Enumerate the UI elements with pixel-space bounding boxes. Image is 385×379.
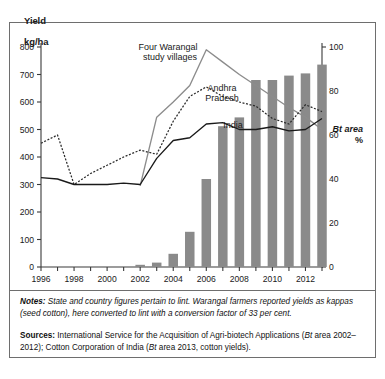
notes-block: Notes: State and country figures pertain…	[20, 296, 366, 321]
bt-area-bar	[317, 65, 327, 267]
x-tick-label: 2002	[131, 274, 150, 284]
yield-lines-group	[41, 50, 322, 186]
y-tick-label: 200	[20, 207, 35, 217]
sources-em-b: Bt	[149, 343, 157, 352]
x-tick-label: 2000	[98, 274, 117, 284]
x-tick-label: 2012	[296, 274, 315, 284]
bt-area-bar	[185, 232, 195, 267]
series-annotation: India	[223, 120, 243, 130]
sources-text-a: International Service for the Acquisitio…	[55, 331, 304, 340]
bt-area-bar	[251, 80, 261, 267]
x-tick-label: 2006	[197, 274, 216, 284]
bt-area-bar	[218, 126, 228, 267]
series-annotation: Andhra	[207, 83, 236, 93]
y-tick-label: 0	[29, 262, 34, 272]
axis-ticks-group: 0100200300400500600700800020406080100199…	[20, 42, 344, 284]
x-tick-label: 2004	[164, 274, 183, 284]
bt-area-bar	[168, 254, 178, 267]
chart-plot: 0100200300400500600700800020406080100199…	[0, 0, 385, 379]
y-tick-label: 800	[20, 42, 35, 52]
bt-area-bar	[301, 73, 311, 267]
y-tick-label: 100	[20, 235, 35, 245]
y-tick-label: 600	[20, 97, 35, 107]
bt-area-bar	[235, 117, 245, 267]
bt-area-bar	[152, 263, 162, 267]
series-annotations-group: Four Warangalstudy villagesAndhraPradesh…	[138, 42, 242, 130]
x-tick-label: 2008	[230, 274, 249, 284]
figure-container: Yield kg/ha Bt area % 010020030040050060…	[0, 0, 385, 379]
bt-area-bar	[284, 76, 294, 267]
y-tick-label: 300	[20, 180, 35, 190]
sources-block: Sources: International Service for the A…	[20, 330, 370, 355]
x-tick-label: 1998	[64, 274, 83, 284]
series-line	[41, 119, 322, 185]
y2-tick-label: 80	[329, 86, 339, 96]
y-tick-label: 700	[20, 70, 35, 80]
series-annotation: Four Warangal	[138, 42, 197, 52]
sources-label: Sources:	[20, 331, 55, 340]
notes-text: State and country figures pertain to lin…	[20, 297, 353, 318]
y-tick-label: 500	[20, 125, 35, 135]
y2-tick-label: 60	[329, 130, 339, 140]
x-tick-label: 1996	[31, 274, 50, 284]
x-tick-label: 2010	[263, 274, 282, 284]
series-line	[140, 50, 322, 186]
y2-tick-label: 20	[329, 218, 339, 228]
y2-tick-label: 0	[329, 262, 334, 272]
bt-area-bar	[268, 80, 278, 267]
bt-area-bar	[202, 179, 212, 267]
y-tick-label: 400	[20, 152, 35, 162]
series-annotation: Pradesh	[205, 93, 239, 103]
bt-area-bar	[135, 265, 145, 267]
series-annotation: study villages	[143, 52, 198, 62]
notes-label: Notes:	[20, 297, 45, 306]
y2-tick-label: 100	[329, 42, 344, 52]
y2-tick-label: 40	[329, 174, 339, 184]
sources-text-c: area 2013, cotton yields).	[157, 343, 251, 352]
